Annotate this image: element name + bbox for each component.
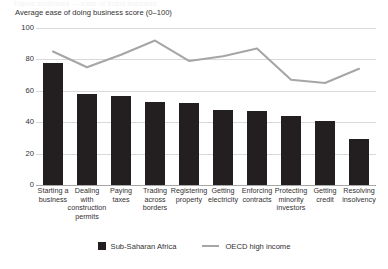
- line-swatch-icon: [202, 245, 219, 247]
- y-tick-label-0: 0: [0, 181, 34, 189]
- x-label-line: business: [39, 195, 67, 204]
- x-axis-category-labels: Starting abusinessDealingwithconstructio…: [36, 187, 376, 231]
- bar-swatch-icon: [98, 242, 106, 250]
- x-label-line: taxes: [112, 195, 129, 204]
- chart-figure: Figure continued — ease of doing busines…: [0, 0, 388, 269]
- x-label-line: investors: [277, 203, 306, 212]
- cropped-title-sliver: Figure continued — ease of doing busines…: [14, 0, 374, 7]
- chart-legend: Sub-Saharan Africa OECD high income: [0, 238, 388, 254]
- x-label-line: insolvency: [342, 195, 376, 204]
- x-label-line: borders: [143, 203, 167, 212]
- y-axis-caption: Average ease of doing business score (0–…: [15, 8, 172, 18]
- x-label-line: permits: [75, 212, 99, 221]
- x-axis-label-10: Resolvinginsolvency: [339, 187, 379, 204]
- x-label-line: contracts: [242, 195, 271, 204]
- legend-item-sub-saharan-africa: Sub-Saharan Africa: [98, 242, 177, 251]
- y-tick-label-40: 40: [0, 118, 34, 126]
- y-tick-label-80: 80: [0, 55, 34, 63]
- legend-label: OECD high income: [225, 242, 290, 251]
- y-tick-label-60: 60: [0, 87, 34, 95]
- legend-label: Sub-Saharan Africa: [111, 242, 177, 251]
- line-series-oecd-high-income: [36, 28, 376, 185]
- x-label-line: electricity: [208, 195, 238, 204]
- plot-area: 020406080100: [36, 28, 376, 185]
- y-tick-label-100: 100: [0, 24, 34, 32]
- x-label-line: property: [176, 195, 202, 204]
- legend-item-oecd-high-income: OECD high income: [202, 242, 290, 251]
- x-label-line: credit: [316, 195, 334, 204]
- y-tick-label-20: 20: [0, 150, 34, 158]
